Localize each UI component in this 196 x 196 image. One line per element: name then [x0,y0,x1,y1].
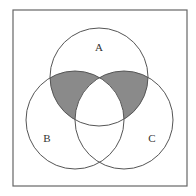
label-a: A [95,41,103,53]
label-c: C [148,132,155,144]
label-b: B [43,132,50,144]
venn-diagram: A B C [0,0,196,196]
